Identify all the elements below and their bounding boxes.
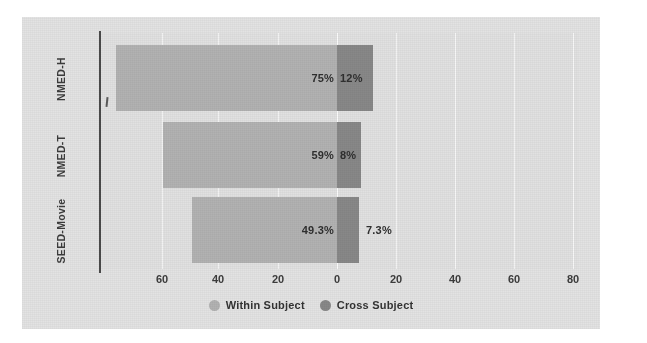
bar-row-seed-movie: 49.3% 7.3% — [100, 197, 578, 263]
bar-row-nmed-h: 75% 12% — [100, 45, 578, 111]
x-tick-label-1: 40 — [212, 273, 224, 285]
bar-cross-nmed-h[interactable]: 12% — [337, 45, 373, 111]
legend-swatch-within-subject — [209, 300, 220, 311]
x-tick-label-2: 20 — [272, 273, 284, 285]
y-tick-label-seed-movie-text: SEED-Movie — [55, 199, 67, 264]
x-tick-label-0: 60 — [156, 273, 168, 285]
bar-label-within-seed-movie: 49.3% — [302, 224, 334, 236]
bar-cross-seed-movie[interactable]: 7.3% — [337, 197, 359, 263]
x-axis: 60 40 20 0 20 40 60 80 — [100, 273, 578, 295]
bar-label-cross-nmed-t: 8% — [340, 149, 356, 161]
bar-within-nmed-t[interactable]: 59% — [163, 122, 337, 188]
bar-row-nmed-t: 59% 8% — [100, 122, 578, 188]
y-tick-label-seed-movie: SEED-Movie — [22, 225, 100, 237]
y-tick-label-nmed-h: NMED-H — [22, 73, 100, 85]
x-tick-label-4: 20 — [390, 273, 402, 285]
chart-figure: 75% 12% 59% 8% 49.3% — [22, 17, 600, 329]
bar-label-within-nmed-h: 75% — [311, 72, 334, 84]
scanned-page: 75% 12% 59% 8% 49.3% — [0, 0, 647, 343]
legend-label-within-subject: Within Subject — [226, 299, 305, 311]
plot-area: 75% 12% 59% 8% 49.3% — [100, 33, 578, 269]
bar-within-seed-movie[interactable]: 49.3% — [192, 197, 337, 263]
y-tick-label-nmed-t: NMED-T — [22, 150, 100, 162]
x-tick-label-3: 0 — [334, 273, 340, 285]
chart-legend: Within Subject Cross Subject — [22, 299, 600, 311]
y-tick-label-nmed-t-text: NMED-T — [55, 135, 67, 178]
legend-swatch-cross-subject — [320, 300, 331, 311]
y-tick-label-nmed-h-text: NMED-H — [55, 57, 67, 101]
legend-label-cross-subject: Cross Subject — [337, 299, 414, 311]
x-tick-label-6: 60 — [508, 273, 520, 285]
bar-label-within-nmed-t: 59% — [311, 149, 334, 161]
x-tick-label-5: 40 — [449, 273, 461, 285]
bar-label-cross-seed-movie: 7.3% — [366, 224, 392, 236]
bar-label-cross-nmed-h: 12% — [340, 72, 363, 84]
bar-cross-nmed-t[interactable]: 8% — [337, 122, 361, 188]
legend-item-cross-subject[interactable]: Cross Subject — [320, 299, 414, 311]
x-tick-label-7: 80 — [567, 273, 579, 285]
legend-item-within-subject[interactable]: Within Subject — [209, 299, 305, 311]
bar-within-nmed-h[interactable]: 75% — [116, 45, 337, 111]
